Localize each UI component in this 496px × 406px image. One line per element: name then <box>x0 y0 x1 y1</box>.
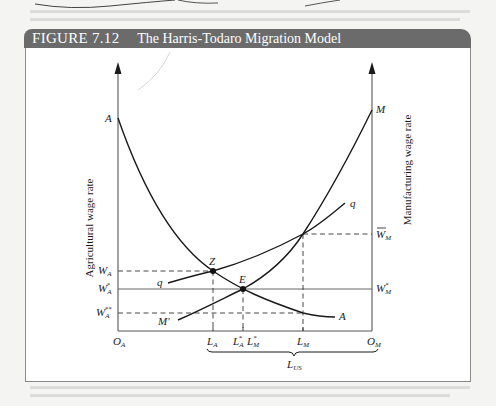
harris-todaro-diagram: A A M M' q q Z E WA WA* WA** WM WM* OA O… <box>0 0 496 406</box>
label-a-end: A <box>338 310 346 322</box>
left-axis-arrow-icon <box>115 62 122 74</box>
origin-a: OA <box>113 335 126 349</box>
label-lus: LUS <box>286 358 302 372</box>
tick-wa-double-star: WA** <box>96 305 112 320</box>
pencil-mark <box>138 52 170 90</box>
tick-lm-star: LM* <box>246 334 260 349</box>
label-z: Z <box>209 255 216 267</box>
label-e: E <box>238 273 246 285</box>
left-axis-title: Agricultural wage rate <box>83 178 95 277</box>
tick-wm-bar: WM <box>376 228 392 242</box>
us-labor-brace <box>207 349 378 356</box>
label-q-end: q <box>350 197 356 209</box>
label-q-start: q <box>157 276 163 288</box>
label-m-prime: M' <box>157 315 170 327</box>
origin-m: OM <box>367 335 382 349</box>
right-axis-arrow-icon <box>369 62 376 74</box>
tick-wm-star: WM* <box>376 281 392 296</box>
label-m-top: M <box>375 103 386 115</box>
tick-wa-star: WA* <box>98 281 112 296</box>
right-axis-title: Manufacturing wage rate <box>401 115 413 226</box>
agricultural-demand-curve <box>118 118 335 317</box>
tick-la-star: LA* <box>232 334 244 349</box>
label-a-top: A <box>104 112 112 124</box>
point-e <box>240 286 246 292</box>
tick-wa: WA <box>98 264 112 278</box>
tick-lm: LM <box>296 335 310 349</box>
tick-la: LA <box>206 335 218 349</box>
point-z <box>210 268 216 274</box>
